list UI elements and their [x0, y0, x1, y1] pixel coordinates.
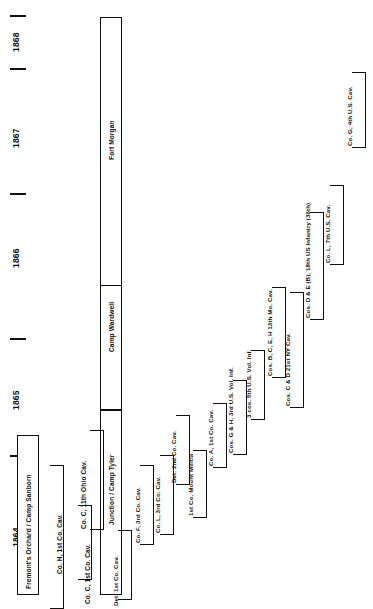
- axis-tick-1868: [10, 15, 26, 17]
- axis-label-1867: 1867: [11, 128, 21, 148]
- bracket-label-co-l-3rd-co-cav: Co. L, 3rd Co. Cav.: [154, 477, 161, 533]
- bracket-co-c-11th-ohio-cav[interactable]: [90, 430, 104, 530]
- bracket-label-co-a-1st-co-cav: Co. A, 1st Co. Cav.: [207, 410, 214, 466]
- bracket-co-l-7th-us-cav[interactable]: [330, 185, 344, 265]
- bar-label-fremonts-orchard-camp-sanborn: Fremont's Orchard / Camp Sanborn: [25, 474, 32, 589]
- bracket-1st-co-mount-militia[interactable]: [193, 450, 207, 518]
- bracket-label-1st-co-mount-militia: 1st Co. Mount Militia: [187, 454, 194, 516]
- bracket-label-det-1st-co-cav: Det. 1st Co. Cav.: [112, 556, 119, 606]
- bracket-label-co-c-11th-ohio-cav: Co. C, 11th Ohio Cav.: [80, 461, 87, 529]
- axis-tick-1865: [10, 338, 26, 340]
- axis-tick-1867: [10, 68, 26, 70]
- bracket-label-cos-d-e-18th-us-infantry: Cos. D & E (B), 18th US Infantry (36th): [304, 203, 311, 318]
- timeline-chart: 1868 1867 1866 1865 1864 Fort Morgan Cam…: [0, 0, 373, 609]
- bracket-label-co-f-3rd-co-cav: Co. F, 3rd Co. Cav.: [134, 487, 141, 543]
- bracket-label-3-cos-5th-us-vol-inf: 3 cos. 5th U.S. Vol. Inf.: [245, 350, 252, 418]
- bracket-label-cos-g-h-3rd-us-vol-inf: Cos. G & H, 3rd U.S. Vol. Inf.: [227, 367, 234, 453]
- axis-tick-1866: [10, 193, 26, 195]
- axis-label-1865: 1865: [11, 390, 21, 410]
- bracket-co-a-1st-co-cav[interactable]: [213, 403, 227, 468]
- bar-label-camp-wardwell: Camp Wardwell: [108, 302, 115, 352]
- bracket-3-cos-5th-us-vol-inf[interactable]: [251, 350, 265, 420]
- bracket-label-det-2nd-co-cav: Det. 2nd Co. Cav.: [170, 431, 177, 483]
- bracket-cos-c-d-21st-ny-cav[interactable]: [290, 292, 304, 408]
- bracket-label-co-l-7th-us-cav: Co. L, 7th U.S. Cav.: [324, 205, 331, 263]
- bracket-label-cos-b-c-e-h-13th-mo-cav: Cos. B, C, E, H 13th Mo. Cav.: [266, 289, 273, 376]
- bar-label-junction-camp-tyler: Junction / Camp Tyler: [108, 455, 115, 526]
- bracket-det-1st-co-cav[interactable]: [118, 530, 132, 600]
- bracket-label-co-h-1st-co-cav: Co. H, 1st Co. Cav.: [56, 514, 63, 574]
- bracket-label-cos-c-d-21st-ny-cav: Cos. C & D 21st NY Cav.: [284, 333, 291, 406]
- axis-label-1866: 1866: [11, 248, 21, 268]
- bracket-cos-d-e-18th-us-infantry[interactable]: [310, 212, 324, 320]
- bar-label-fort-morgan: Fort Morgan: [108, 120, 115, 160]
- bracket-label-co-g-4th-us-cav: Co. G, 4th U.S. Cav.: [346, 87, 353, 146]
- bracket-co-f-3rd-co-cav[interactable]: [140, 465, 154, 545]
- bracket-co-g-4th-us-cav[interactable]: [352, 72, 366, 148]
- bracket-label-co-c-1st-co-cav: Co. C, 1st Co. Cav.: [84, 544, 91, 604]
- axis-label-1868: 1868: [11, 32, 21, 52]
